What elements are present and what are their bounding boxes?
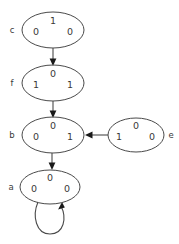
node-b-right-value: 1 [67, 131, 73, 142]
node-f-right-value: 1 [67, 79, 73, 90]
node-e-label: e [168, 130, 173, 140]
graph-svg: c 1 0 0 f 0 1 1 b 0 0 1 a 0 0 0 [0, 0, 179, 244]
node-e-top-value: 0 [133, 120, 139, 131]
edge-b-to-a [49, 153, 56, 170]
node-a-top-value: 0 [47, 172, 53, 183]
state-diagram-canvas: c 1 0 0 f 0 1 1 b 0 0 1 a 0 0 0 [0, 0, 179, 244]
node-b-left-value: 0 [33, 131, 39, 142]
node-a-right-value: 0 [64, 183, 70, 194]
node-b-label: b [9, 130, 14, 140]
node-a[interactable]: a 0 0 0 [8, 170, 80, 204]
node-b-top-value: 0 [50, 120, 56, 131]
edge-f-to-b [50, 101, 57, 118]
edge-e-to-b [85, 132, 108, 139]
node-a-left-value: 0 [31, 183, 37, 194]
arrowhead-left-icon [85, 132, 93, 139]
node-c-right-value: 0 [67, 26, 73, 37]
node-c[interactable]: c 1 0 0 [10, 12, 84, 48]
node-f-left-value: 1 [33, 79, 39, 90]
node-c-label: c [10, 25, 15, 35]
node-f-top-value: 0 [50, 68, 56, 79]
node-c-top-value: 1 [50, 15, 56, 26]
node-e-left-value: 1 [116, 131, 122, 142]
node-e-right-value: 0 [149, 131, 155, 142]
arrowhead-down-icon [49, 163, 56, 171]
edge-a-self-loop [35, 202, 65, 234]
node-b[interactable]: b 0 0 1 [9, 117, 84, 153]
node-e[interactable]: e 0 1 0 [108, 118, 174, 152]
node-a-label: a [8, 182, 13, 192]
node-f-label: f [11, 78, 15, 88]
edge-c-to-f [50, 48, 57, 66]
node-f[interactable]: f 0 1 1 [11, 65, 85, 101]
node-c-left-value: 0 [33, 26, 39, 37]
